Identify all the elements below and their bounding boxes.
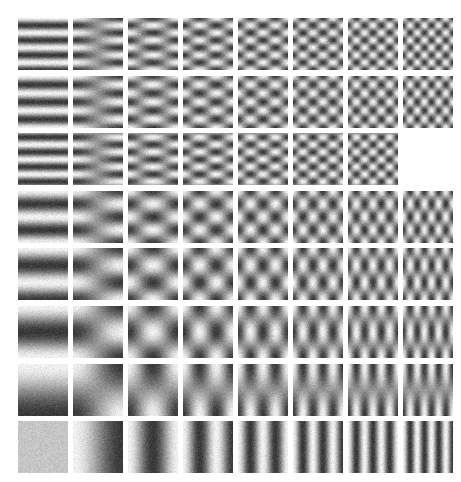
basis-tile-r7-c2: [128, 421, 178, 473]
basis-tile-r2-c3: [183, 133, 233, 185]
basis-tile-r0-c4: [238, 18, 288, 70]
basis-tile-r2-c2: [128, 133, 178, 185]
basis-tile-r5-c1: [73, 306, 123, 358]
basis-tile-r3-c2: [128, 191, 178, 243]
basis-tile-r3-c6: [348, 191, 398, 243]
basis-tile-r7-c1: [73, 421, 123, 473]
basis-tile-r7-c3: [183, 421, 233, 473]
basis-tile-r5-c4: [238, 306, 288, 358]
basis-tile-r1-c3: [183, 76, 233, 128]
basis-tile-r3-c4: [238, 191, 288, 243]
basis-tile-r5-c0: [18, 306, 68, 358]
basis-tile-r1-c5: [293, 76, 343, 128]
basis-tile-r0-c7: [403, 18, 453, 70]
basis-tile-r4-c7: [403, 248, 453, 300]
basis-tile-r0-c0: [18, 18, 68, 70]
basis-tile-r2-c0: [18, 133, 68, 185]
basis-tile-r6-c0: [18, 364, 68, 416]
basis-tile-r4-c0: [18, 248, 68, 300]
basis-tile-r6-c4: [238, 364, 288, 416]
basis-tile-r3-c5: [293, 191, 343, 243]
basis-tile-r3-c7: [403, 191, 453, 243]
basis-tile-r7-c7: [403, 421, 453, 473]
basis-tile-r2-c1: [73, 133, 123, 185]
basis-tile-r4-c6: [348, 248, 398, 300]
basis-tile-r1-c2: [128, 76, 178, 128]
basis-tile-r1-c4: [238, 76, 288, 128]
basis-tile-r1-c1: [73, 76, 123, 128]
basis-function-grid: [0, 0, 461, 482]
basis-tile-r2-c4: [238, 133, 288, 185]
basis-tile-r0-c3: [183, 18, 233, 70]
basis-tile-r1-c7: [403, 76, 453, 128]
basis-tile-r7-c0: [18, 421, 68, 473]
basis-tile-r4-c5: [293, 248, 343, 300]
basis-tile-r6-c2: [128, 364, 178, 416]
basis-tile-r0-c5: [293, 18, 343, 70]
basis-tile-r4-c3: [183, 248, 233, 300]
basis-tile-r3-c1: [73, 191, 123, 243]
basis-tile-r7-c6: [348, 421, 398, 473]
basis-tile-r5-c6: [348, 306, 398, 358]
basis-tile-r6-c1: [73, 364, 123, 416]
basis-tile-r1-c0: [18, 76, 68, 128]
basis-tile-r7-c4: [238, 421, 288, 473]
basis-tile-r0-c6: [348, 18, 398, 70]
basis-tile-r5-c5: [293, 306, 343, 358]
basis-tile-r2-c6: [348, 133, 398, 185]
basis-tile-r6-c6: [348, 364, 398, 416]
basis-tile-r0-c1: [73, 18, 123, 70]
basis-tile-r0-c2: [128, 18, 178, 70]
basis-tile-r6-c5: [293, 364, 343, 416]
basis-tile-r4-c4: [238, 248, 288, 300]
basis-tile-r2-c5: [293, 133, 343, 185]
basis-tile-r5-c3: [183, 306, 233, 358]
basis-tile-r7-c5: [293, 421, 343, 473]
basis-tile-r4-c1: [73, 248, 123, 300]
basis-tile-r6-c3: [183, 364, 233, 416]
basis-tile-r5-c2: [128, 306, 178, 358]
basis-tile-r1-c6: [348, 76, 398, 128]
basis-tile-r3-c0: [18, 191, 68, 243]
basis-tile-r4-c2: [128, 248, 178, 300]
basis-tile-r3-c3: [183, 191, 233, 243]
basis-tile-r5-c7: [403, 306, 453, 358]
basis-tile-r6-c7: [403, 364, 453, 416]
